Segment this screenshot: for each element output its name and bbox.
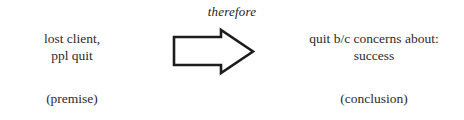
premise-text-block: lost client, ppl quit xyxy=(6,30,138,64)
conclusion-line-1: quit b/c concerns about: xyxy=(290,30,458,47)
conclusion-text-block: quit b/c concerns about: success xyxy=(290,30,458,64)
arrow-outline-shape xyxy=(174,30,253,73)
right-block-arrow-icon xyxy=(168,24,260,80)
premise-role-label: (premise) xyxy=(6,90,138,107)
conclusion-role-label: (conclusion) xyxy=(290,90,458,107)
connective-label: therefore xyxy=(0,4,464,19)
premise-line-2: ppl quit xyxy=(6,47,138,64)
argument-diagram: therefore lost client, ppl quit (premise… xyxy=(0,0,464,120)
premise-line-1: lost client, xyxy=(6,30,138,47)
conclusion-line-2: success xyxy=(290,47,458,64)
